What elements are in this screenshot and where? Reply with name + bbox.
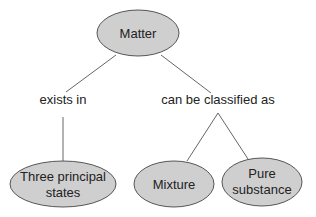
- node-three-principal-states: Three principal states: [10, 161, 116, 207]
- edge-matter-classified: [161, 55, 211, 93]
- link-label-exists-in: exists in: [40, 92, 87, 107]
- node-mixture: Mixture: [134, 161, 214, 207]
- node-states-line1: Three principal: [20, 169, 106, 184]
- edge-matter-exists-in: [66, 55, 116, 92]
- node-states-line2: states: [46, 185, 81, 200]
- link-label-classified-as: can be classified as: [161, 92, 275, 107]
- concept-map: Matter exists in can be classified as Th…: [0, 0, 316, 217]
- edge-classified-mixture: [187, 113, 218, 161]
- node-pure-line1: Pure: [248, 166, 275, 181]
- node-mixture-label: Mixture: [153, 177, 196, 192]
- node-matter: Matter: [97, 10, 179, 56]
- node-matter-label: Matter: [120, 26, 158, 41]
- edge-classified-pure: [218, 113, 248, 159]
- node-pure-substance: Pure substance: [222, 158, 302, 206]
- node-pure-line2: substance: [232, 182, 291, 197]
